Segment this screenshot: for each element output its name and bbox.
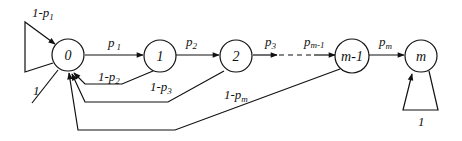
label-back-m1: 1-pm (224, 87, 248, 104)
label-p2: p2 (185, 34, 198, 51)
back-edge-2 (72, 71, 224, 102)
label-self-loop-m: 1 (418, 114, 425, 129)
label-self-loop-0: 1-p1 (32, 5, 54, 22)
label-back-2: 1-p3 (150, 79, 172, 96)
self-loop-m-edge (403, 71, 438, 110)
label-back-1: 1-p2 (98, 69, 120, 86)
markov-chain-diagram: 0 1 2 m-1 m 1-p1 1 p1 p2 p3 pm-1 pm 1-p2… (0, 0, 462, 141)
label-p3: p3 (264, 34, 277, 51)
node-m-label: m (416, 49, 426, 64)
label-pm: pm (378, 34, 393, 51)
node-m-1-label: m-1 (341, 49, 363, 64)
self-loop-0-edge (25, 22, 55, 72)
label-pm1: pm-1 (303, 34, 325, 50)
node-0-label: 0 (65, 48, 72, 63)
label-entry-0: 1 (33, 83, 40, 98)
node-1-label: 1 (157, 49, 164, 64)
node-2-label: 2 (233, 49, 240, 64)
label-p1: p1 (107, 35, 121, 52)
